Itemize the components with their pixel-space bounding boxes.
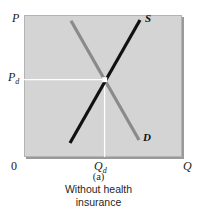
panel-label: (a) [0,170,197,183]
y-tick-label-pd: Pd [8,71,19,86]
figure-caption: (a) Without health insurance [0,170,197,209]
plot-svg [24,15,182,157]
y-tick-label-subscript: d [15,77,19,86]
equilibrium-point-marker [102,77,107,82]
caption-line-1: Without health [0,183,197,196]
demand-curve-label: D [143,132,151,143]
caption-line-2: insurance [0,196,197,209]
supply-curve-label: S [145,13,151,24]
figure-panel-a: P Q 0 Pd Qd S D (a) Without health insur… [0,0,197,211]
y-axis-label: P [12,12,19,24]
